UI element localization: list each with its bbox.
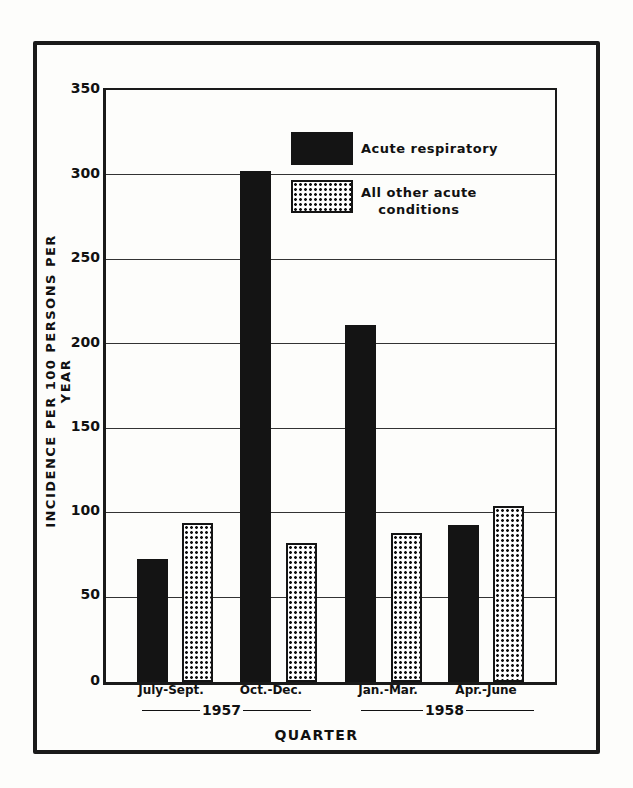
gridline-100	[106, 512, 555, 513]
y-tick-0: 0	[60, 673, 100, 687]
y-tick-200: 200	[60, 335, 100, 349]
y-tick-350: 350	[60, 81, 100, 95]
x-category-jan-mar: Jan.-Mar.	[338, 683, 438, 697]
year-group-1958: 1958	[361, 702, 534, 718]
year-group-1957: 1957	[142, 702, 311, 718]
x-category-july-sept: July-Sept.	[121, 683, 221, 697]
legend-label-line2: conditions	[361, 201, 477, 218]
y-tick-250: 250	[60, 250, 100, 264]
y-tick-300: 300	[60, 166, 100, 180]
gridline-50	[106, 597, 555, 598]
x-axis-label: QUARTER	[0, 727, 633, 743]
plot-area	[103, 88, 557, 685]
bar-other-acute-july-sept	[182, 523, 213, 682]
bar-other-acute-jan-mar	[391, 533, 422, 682]
gridline-300	[106, 174, 555, 175]
bar-acute-respiratory-oct-dec	[240, 171, 271, 682]
y-tick-150: 150	[60, 419, 100, 433]
bar-other-acute-apr-june	[493, 506, 524, 682]
bar-acute-respiratory-apr-june	[448, 525, 479, 682]
bar-acute-respiratory-jan-mar	[345, 325, 376, 682]
legend-item-acute-respiratory: Acute respiratory	[291, 132, 498, 165]
legend-label-line1: All other acute	[361, 184, 477, 201]
y-axis-label: INCIDENCE PER 100 PERSONS PER YEAR	[43, 231, 73, 531]
legend-swatch-solid	[291, 132, 353, 165]
year-label: 1958	[423, 702, 466, 718]
gridline-200	[106, 343, 555, 344]
x-category-oct-dec: Oct.-Dec.	[221, 683, 321, 697]
year-bracket-line	[466, 710, 534, 711]
y-tick-50: 50	[60, 587, 100, 601]
legend-swatch-dotted	[291, 180, 353, 213]
bar-other-acute-oct-dec	[286, 543, 317, 682]
y-tick-100: 100	[60, 503, 100, 517]
legend-label: Acute respiratory	[361, 140, 498, 157]
legend-label: All other acute conditions	[361, 184, 477, 218]
gridline-150	[106, 428, 555, 429]
legend-item-other-acute: All other acute conditions	[291, 180, 477, 218]
year-bracket-line	[361, 710, 423, 711]
year-bracket-line	[243, 710, 311, 711]
x-category-apr-june: Apr.-June	[436, 683, 536, 697]
year-label: 1957	[200, 702, 243, 718]
bar-acute-respiratory-july-sept	[137, 559, 168, 682]
year-bracket-line	[142, 710, 200, 711]
gridline-250	[106, 259, 555, 260]
